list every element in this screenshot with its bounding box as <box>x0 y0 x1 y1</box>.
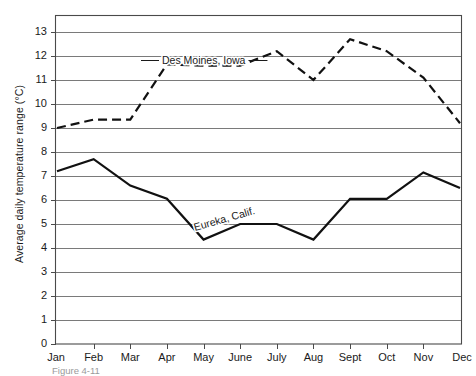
eureka-label: Eureka, Calif. <box>192 204 256 233</box>
x-tick-label: Nov <box>414 351 434 363</box>
figure-caption: Figure 4-11 <box>52 365 100 376</box>
y-axis-ticks: 012345678910111213 <box>35 25 56 349</box>
x-tick-label: Dec <box>452 351 472 363</box>
x-tick-label: Aug <box>304 351 324 363</box>
x-tick-label: Jan <box>47 351 65 363</box>
y-tick-label: 7 <box>41 169 47 181</box>
y-tick-label: 5 <box>41 217 47 229</box>
y-tick-label: 12 <box>35 49 47 61</box>
des-moines-label: Des Moines, Iowa <box>162 54 246 66</box>
eureka-label-group: Eureka, Calif.Eureka, Calif. <box>192 204 256 233</box>
y-tick-label: 8 <box>41 145 47 157</box>
y-tick-label: 9 <box>41 121 47 133</box>
data-series-group <box>57 39 460 239</box>
y-tick-label: 13 <box>35 25 47 37</box>
y-tick-label: 10 <box>35 97 47 109</box>
x-tick-label: Sept <box>339 351 362 363</box>
y-tick-label: 2 <box>41 289 47 301</box>
x-tick-label: May <box>193 351 214 363</box>
plot-frame <box>56 16 462 345</box>
y-tick-label: 6 <box>41 193 47 205</box>
series-line-des-moines-iowa <box>57 39 460 128</box>
y-tick-label: 4 <box>41 241 47 253</box>
x-tick-label: Oct <box>378 351 395 363</box>
x-tick-label: Apr <box>158 351 175 363</box>
x-axis-ticks: JanFebMarAprMayJuneJulyAugSeptOctNovDec <box>47 344 472 363</box>
y-tick-label: 3 <box>41 265 47 277</box>
x-tick-label: July <box>267 351 287 363</box>
x-tick-label: Feb <box>84 351 103 363</box>
x-tick-label: June <box>228 351 252 363</box>
y-tick-label: 11 <box>36 73 47 85</box>
y-tick-label: 1 <box>41 313 47 325</box>
series-line-eureka-calif <box>57 159 460 239</box>
x-tick-label: Mar <box>121 351 140 363</box>
y-tick-label: 0 <box>41 337 47 349</box>
